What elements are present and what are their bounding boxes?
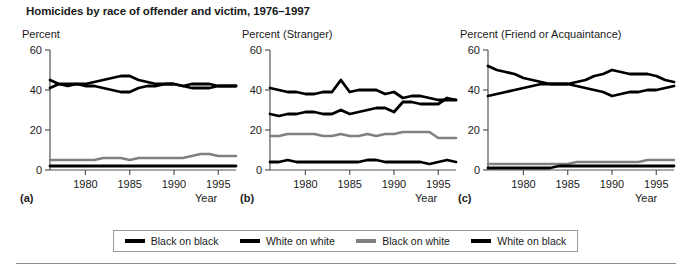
chart-panel-b: Percent (Stranger) 020406019801985199019… <box>240 28 462 213</box>
panel-c-letter: (c) <box>458 192 471 204</box>
panel-a-axis-title: Percent <box>22 28 60 40</box>
legend-item-black-on-white: Black on white <box>356 235 450 247</box>
svg-text:0: 0 <box>474 164 480 176</box>
legend-label-3: White on black <box>497 235 566 247</box>
series-line-0 <box>488 66 674 84</box>
svg-text:1995: 1995 <box>206 178 230 190</box>
svg-text:40: 40 <box>468 84 480 96</box>
svg-text:40: 40 <box>250 84 262 96</box>
svg-text:20: 20 <box>250 124 262 136</box>
legend-swatch-icon-1 <box>240 239 260 243</box>
panel-a-svg: 02040601980198519901995 <box>20 42 242 192</box>
panel-c-xlabel: Year <box>635 192 657 204</box>
legend-label-0: Black on black <box>151 235 219 247</box>
series-line-2 <box>488 160 674 164</box>
series-line-2 <box>270 132 456 138</box>
panel-c-axis-title: Percent (Friend or Acquaintance) <box>460 28 621 40</box>
chart-legend: Black on black White on white Black on w… <box>113 230 578 252</box>
svg-text:1990: 1990 <box>600 178 624 190</box>
legend-label-1: White on white <box>266 235 335 247</box>
svg-text:1995: 1995 <box>644 178 668 190</box>
legend-item-white-on-black: White on black <box>471 235 566 247</box>
svg-text:1980: 1980 <box>73 178 97 190</box>
footer-rule <box>16 263 676 264</box>
svg-text:1985: 1985 <box>117 178 141 190</box>
panel-a-plot: 02040601980198519901995 <box>20 42 242 196</box>
svg-text:1980: 1980 <box>293 178 317 190</box>
legend-swatch-icon-3 <box>471 239 491 243</box>
svg-text:20: 20 <box>30 124 42 136</box>
svg-text:0: 0 <box>256 164 262 176</box>
svg-text:1990: 1990 <box>382 178 406 190</box>
panel-c-plot: 02040601980198519901995 <box>458 42 680 196</box>
svg-text:1980: 1980 <box>511 178 535 190</box>
chart-panel-c: Percent (Friend or Acquaintance) 0204060… <box>458 28 680 213</box>
legend-label-2: Black on white <box>382 235 450 247</box>
svg-text:60: 60 <box>468 44 480 56</box>
panel-a-letter: (a) <box>20 192 33 204</box>
series-line-0 <box>270 80 456 100</box>
svg-text:60: 60 <box>250 44 262 56</box>
svg-text:1985: 1985 <box>555 178 579 190</box>
series-line-1 <box>270 98 456 116</box>
chart-panel-a: Percent 02040601980198519901995 (a) Year <box>20 28 242 213</box>
legend-swatch-icon-0 <box>125 239 145 243</box>
svg-text:1990: 1990 <box>162 178 186 190</box>
panel-b-letter: (b) <box>240 192 254 204</box>
panel-b-axis-title: Percent (Stranger) <box>242 28 332 40</box>
series-line-3 <box>488 166 674 168</box>
series-line-1 <box>488 84 674 96</box>
svg-text:1995: 1995 <box>426 178 450 190</box>
series-line-3 <box>270 160 456 164</box>
svg-text:1985: 1985 <box>337 178 361 190</box>
panel-b-xlabel: Year <box>415 192 437 204</box>
panel-a-xlabel: Year <box>195 192 217 204</box>
legend-item-black-on-black: Black on black <box>125 235 219 247</box>
svg-text:60: 60 <box>30 44 42 56</box>
series-line-2 <box>50 154 236 160</box>
figure-title: Homicides by race of offender and victim… <box>26 5 310 17</box>
legend-swatch-icon-2 <box>356 239 376 243</box>
panel-b-plot: 02040601980198519901995 <box>240 42 462 196</box>
legend-item-white-on-white: White on white <box>240 235 335 247</box>
figure-root: Homicides by race of offender and victim… <box>0 0 691 271</box>
svg-text:0: 0 <box>36 164 42 176</box>
panel-b-svg: 02040601980198519901995 <box>240 42 462 192</box>
panel-c-svg: 02040601980198519901995 <box>458 42 680 192</box>
svg-text:20: 20 <box>468 124 480 136</box>
svg-text:40: 40 <box>30 84 42 96</box>
